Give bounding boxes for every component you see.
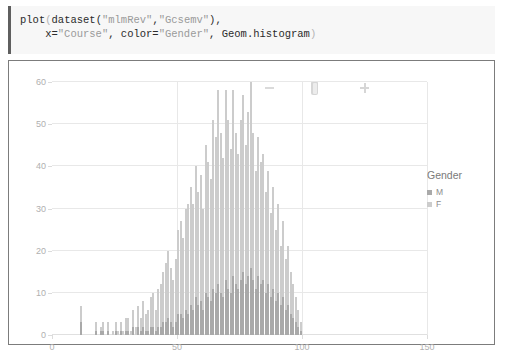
code-line-1: plot(dataset("mlmRev","Gcsemv"), <box>20 14 222 27</box>
code-token: , Geom.histogram <box>209 28 310 40</box>
code-input-cell[interactable]: plot(dataset("mlmRev","Gcsemv"), x="Cour… <box>8 6 495 54</box>
legend-swatch-icon <box>427 202 432 207</box>
legend: Gender MF <box>427 169 493 211</box>
x-tick-mark <box>302 335 303 339</box>
y-tick-mark <box>48 293 52 294</box>
legend-entry[interactable]: M <box>427 187 493 197</box>
legend-title: Gender <box>427 169 493 181</box>
y-tick-mark <box>48 166 52 167</box>
x-tick-mark <box>52 335 53 339</box>
bar-segment-m <box>102 331 104 335</box>
bar-segment-f <box>95 322 97 330</box>
y-tick-label: 30 <box>36 204 46 214</box>
y-tick-mark <box>48 251 52 252</box>
bar-stack <box>80 305 82 335</box>
histogram-bars <box>52 82 427 335</box>
code-token: "Gender" <box>159 28 209 40</box>
plot-panel: 0102030405060 050100150 <box>52 82 427 335</box>
code-line-2: x="Course", color="Gender", Geom.histogr… <box>20 28 316 41</box>
code-token: "Gcsemv" <box>159 14 209 26</box>
bar-segment-f <box>120 322 122 330</box>
code-token: ), <box>209 14 222 26</box>
bar-segment-f <box>80 306 82 323</box>
code-token: x= <box>20 28 58 40</box>
code-token: plot <box>20 14 45 26</box>
bar-segment-f <box>132 310 134 327</box>
y-tick-label: 20 <box>36 246 46 256</box>
bar-segment-f <box>107 322 109 330</box>
x-tick-mark <box>177 335 178 339</box>
bar-stack <box>95 322 97 335</box>
bar-segment-m <box>107 331 109 335</box>
y-tick-label: 40 <box>36 161 46 171</box>
bar-segment-f <box>300 322 302 330</box>
bar-segment-m <box>95 331 97 335</box>
legend-entry-label: M <box>436 187 443 197</box>
y-tick-label: 0 <box>41 330 46 340</box>
code-token: "Course" <box>58 28 108 40</box>
code-token: ) <box>310 28 316 40</box>
x-tick-mark <box>427 335 428 339</box>
legend-entry-label: F <box>436 199 441 209</box>
bar-segment-m <box>80 322 82 335</box>
code-token: , color= <box>108 28 158 40</box>
y-tick-label: 60 <box>36 77 46 87</box>
bar-stack <box>107 322 109 335</box>
bar-segment-f <box>115 322 117 330</box>
y-tick-mark <box>48 82 52 83</box>
bar-segment-f <box>127 318 129 331</box>
y-tick-label: 10 <box>36 288 46 298</box>
legend-entries: MF <box>427 187 493 209</box>
bar-stack <box>300 322 302 335</box>
notebook-cell-output: plot(dataset("mlmRev","Gcsemv"), x="Cour… <box>0 0 509 361</box>
y-tick-mark <box>48 209 52 210</box>
code-token: dataset( <box>52 14 102 26</box>
code-token: "mlmRev" <box>102 14 152 26</box>
y-tick-mark <box>48 124 52 125</box>
y-tick-label: 50 <box>36 119 46 129</box>
plot-figure: 0102030405060 050100150 Course Gender MF <box>8 60 495 345</box>
bar-segment-f <box>102 322 104 330</box>
bar-stack <box>102 322 104 335</box>
legend-entry[interactable]: F <box>427 199 493 209</box>
legend-swatch-icon <box>427 190 432 195</box>
